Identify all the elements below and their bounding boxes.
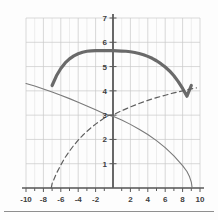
- plot-background: [0, 0, 218, 220]
- y-tick-label: 2: [103, 135, 108, 144]
- y-tick-label: 1: [103, 160, 108, 169]
- chart-figure: -10-8-6-4-2246810 1234567: [0, 0, 218, 220]
- graph-plot: -10-8-6-4-2246810 1234567: [0, 0, 218, 220]
- x-tick-label: -6: [57, 195, 65, 204]
- y-tick-label: 6: [103, 38, 108, 47]
- y-tick-label: 7: [103, 14, 108, 23]
- x-tick-label: -8: [40, 195, 48, 204]
- x-tick-label: 4: [146, 195, 151, 204]
- x-tick-label: -4: [75, 195, 83, 204]
- x-tick-label: -10: [20, 195, 32, 204]
- y-tick-label: 4: [103, 87, 108, 96]
- x-tick-label: -2: [92, 195, 100, 204]
- x-tick-label: 8: [180, 195, 185, 204]
- bottom-divider: [4, 211, 214, 212]
- x-tick-label: 2: [128, 195, 133, 204]
- x-tick-label: 6: [163, 195, 168, 204]
- y-tick-label: 3: [103, 111, 108, 120]
- y-tick-label: 5: [103, 63, 108, 72]
- x-tick-label: 10: [196, 195, 205, 204]
